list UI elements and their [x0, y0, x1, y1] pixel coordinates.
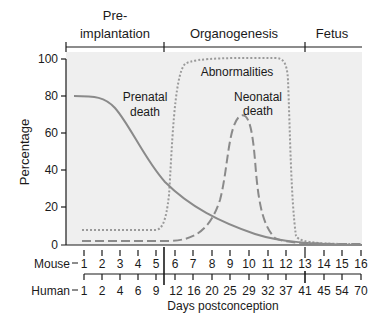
- human-tick: 2: [99, 284, 106, 298]
- phase-fetus: Fetus: [316, 26, 349, 41]
- human-tick: 41: [298, 284, 312, 298]
- mouse-tick: 8: [209, 257, 216, 271]
- annotation-prenatal-1: Prenatal: [123, 90, 168, 104]
- mouse-tick: 9: [227, 257, 234, 271]
- human-tick: 9: [153, 284, 160, 298]
- human-tick: 12: [169, 284, 183, 298]
- y-tick-80: 80: [45, 89, 59, 103]
- y-tick-60: 60: [45, 126, 59, 140]
- human-axis: [84, 271, 361, 283]
- x-axis-label: Days postconception: [167, 299, 278, 313]
- chart: Pre- implantation Organogenesis Fetus 10…: [0, 0, 382, 330]
- mouse-tick: 2: [99, 257, 106, 271]
- mouse-tick: 7: [190, 257, 197, 271]
- human-tick-labels: 1 2 4 6 9 12 16 20 25 29 32 37 41 45 54 …: [81, 284, 368, 298]
- mouse-tick: 11: [262, 257, 275, 271]
- human-tick: 54: [335, 284, 349, 298]
- y-tick-20: 20: [45, 200, 59, 214]
- annotation-abnormalities: Abnormalities: [201, 65, 274, 79]
- human-tick: 25: [223, 284, 237, 298]
- mouse-tick: 3: [117, 257, 124, 271]
- phase-preimplantation-line1: Pre-: [103, 8, 128, 23]
- phase-preimplantation-line2: implantation: [80, 26, 150, 41]
- y-tick-labels: 100 80 60 40 20 0: [38, 52, 58, 252]
- annotation-neonatal-2: death: [243, 104, 273, 118]
- mouse-tick: 6: [172, 257, 179, 271]
- mouse-tick: 12: [279, 257, 293, 271]
- annotation-neonatal-1: Neonatal: [234, 90, 282, 104]
- y-tick-0: 0: [51, 238, 58, 252]
- mouse-tick: 4: [135, 257, 142, 271]
- annotation-prenatal-2: death: [130, 105, 160, 119]
- human-tick: 6: [135, 284, 142, 298]
- mouse-tick: 1: [81, 257, 88, 271]
- human-tick: 16: [187, 284, 201, 298]
- human-tick: 20: [205, 284, 219, 298]
- phase-organogenesis: Organogenesis: [190, 26, 279, 41]
- mouse-tick: 13: [298, 257, 312, 271]
- human-tick: 32: [261, 284, 275, 298]
- human-tick: 4: [117, 284, 124, 298]
- mouse-axis-label: Mouse: [34, 257, 70, 271]
- mouse-tick: 10: [242, 257, 256, 271]
- y-tick-40: 40: [45, 163, 59, 177]
- human-axis-label: Human: [31, 284, 70, 298]
- phase-bar: [66, 42, 362, 52]
- y-tick-100: 100: [38, 52, 58, 66]
- mouse-tick: 15: [335, 257, 349, 271]
- human-tick: 70: [354, 284, 368, 298]
- human-tick: 45: [317, 284, 331, 298]
- mouse-tick-labels: 1 2 3 4 5 6 7 8 9 10 11 12 13 14 15 16: [81, 257, 368, 271]
- human-tick: 37: [279, 284, 293, 298]
- mouse-tick: 14: [317, 257, 331, 271]
- human-tick: 1: [81, 284, 88, 298]
- mouse-tick: 5: [153, 257, 160, 271]
- mouse-tick: 16: [354, 257, 368, 271]
- y-axis-label: Percentage: [17, 119, 32, 186]
- human-tick: 29: [242, 284, 256, 298]
